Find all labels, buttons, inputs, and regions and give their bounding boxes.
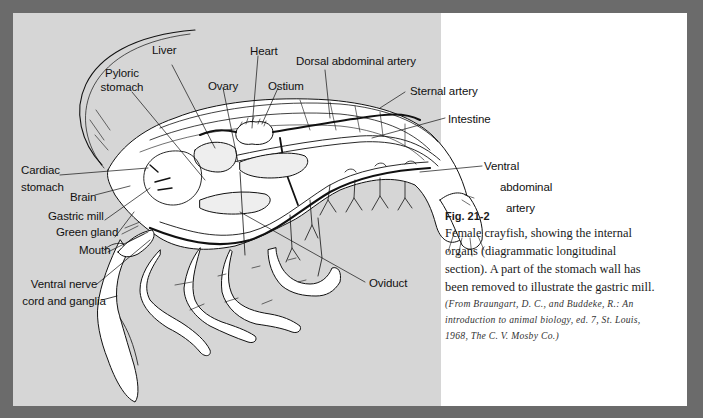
label-mouth: Mouth xyxy=(79,244,110,257)
walking-leg-1 xyxy=(140,250,210,356)
label-green-gland: Green gland xyxy=(56,226,118,239)
walking-leg-3 xyxy=(221,250,300,333)
label-brain: Brain xyxy=(70,191,96,204)
label-ostium: Ostium xyxy=(268,80,304,93)
label-dorsal-abdominal-artery: Dorsal abdominal artery xyxy=(296,55,416,68)
label-intestine: Intestine xyxy=(448,113,491,126)
figure-number: Fig. 21-2 xyxy=(445,209,680,223)
label-oviduct: Oviduct xyxy=(369,277,407,290)
walking-leg-2 xyxy=(184,248,256,343)
figure-caption: Fig. 21-2 Female crayfish, showing the i… xyxy=(445,209,680,344)
label-ventral-abdominal-artery: Ventral abdominal artery xyxy=(484,160,552,215)
label-sternal-artery: Sternal artery xyxy=(410,85,478,98)
label-gastric-mill: Gastric mill xyxy=(48,210,104,223)
cheliped xyxy=(97,240,137,402)
caption-text: Female crayfish, showing the internal or… xyxy=(445,224,680,296)
label-pyloric-stomach: Pyloric stomach xyxy=(100,67,144,94)
label-cardiac-stomach: Cardiac stomach xyxy=(21,164,64,194)
label-ventral-nerve-cord: Ventral nerve cord and ganglia xyxy=(22,278,106,308)
label-ovary: Ovary xyxy=(208,80,238,93)
label-liver: Liver xyxy=(152,44,176,57)
caption-source: (From Braungart, D. C., and Buddeke, R.:… xyxy=(445,296,680,344)
walking-leg-4 xyxy=(268,248,341,296)
label-heart: Heart xyxy=(250,45,278,58)
heart xyxy=(236,121,273,144)
